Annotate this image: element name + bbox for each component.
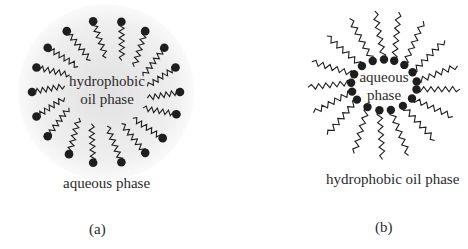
hydrophilic-head [117, 17, 126, 26]
hydrophobic-tail [374, 11, 386, 59]
hydrophobic-tail [107, 126, 122, 162]
hydrophilic-head [62, 27, 71, 36]
hydrophobic-tail [32, 84, 65, 94]
hydrophilic-head [160, 44, 169, 53]
normal-micelle-drawing [0, 0, 234, 249]
hydrophobic-tail [327, 36, 362, 66]
hydrophobic-tail [89, 124, 96, 163]
hydrophilic-head [43, 44, 52, 53]
surfactant-molecule [62, 27, 90, 61]
hydrophobic-tail [417, 87, 460, 93]
hydrophilic-head [176, 88, 185, 97]
hydrophobic-tail [390, 110, 409, 156]
surfactant-molecule [390, 12, 401, 65]
hydrophilic-head [390, 57, 398, 65]
surfactant-molecule [89, 124, 98, 167]
surfactant-molecule [387, 106, 409, 156]
hydrophilic-head [43, 132, 52, 141]
hydrophobic-tail [417, 66, 458, 83]
hydrophilic-head [141, 149, 150, 158]
hydrophobic-tail [350, 19, 374, 61]
hydrophilic-head [375, 106, 383, 114]
surfactant-molecule [412, 85, 460, 93]
reverse-micelle-drawing [234, 0, 468, 249]
caption-b: (b) [375, 220, 393, 235]
hydrophilic-head [158, 134, 167, 143]
hydrophobic-tail [37, 98, 65, 117]
hydrophilic-head [32, 63, 41, 72]
outer-label-b: hydrophobic oil phase [326, 172, 459, 187]
surfactant-molecule [65, 118, 81, 159]
hydrophobic-tail [133, 31, 146, 67]
hydrophobic-tail [413, 40, 445, 72]
hydrophilic-head [387, 106, 395, 114]
hydrophilic-head [89, 17, 98, 26]
hydrophilic-head [369, 57, 377, 65]
hydrophilic-head [32, 112, 41, 121]
hydrophobic-tail [119, 22, 125, 61]
hydrophobic-tail [308, 81, 351, 90]
surfactant-molecule [28, 84, 65, 96]
surfactant-molecule [89, 17, 107, 58]
hydrophobic-tail [353, 107, 368, 153]
hydrophobic-tail [403, 106, 435, 141]
hydrophobic-tail [327, 100, 357, 135]
core-label-b-line2: phase [352, 86, 416, 104]
hydrophobic-tail [404, 21, 424, 65]
surfactant-molecule [375, 106, 384, 159]
surfactant-molecule [32, 98, 64, 121]
hydrophobic-tail [147, 90, 180, 100]
surfactant-molecule [374, 11, 388, 64]
hydrophobic-tail [392, 12, 401, 61]
hydrophilic-head [172, 110, 181, 119]
panel-a-normal-micelle: hydrophobic oil phase aqueous phase (a) [0, 0, 234, 249]
surfactant-molecule [117, 17, 126, 60]
core-label-b-line1: aqueous [352, 68, 416, 86]
hydrophobic-tail [133, 118, 163, 138]
hydrophilic-head [171, 63, 180, 72]
hydrophobic-tail [377, 110, 385, 159]
hydrophobic-tail [68, 118, 80, 154]
hydrophilic-head [28, 88, 37, 97]
surfactant-molecule [122, 124, 150, 158]
surfactant-molecule [412, 66, 457, 86]
surfactant-molecule [43, 44, 78, 68]
hydrophobic-tail [92, 21, 107, 58]
hydrophilic-head [117, 158, 126, 167]
hydrophobic-tail [412, 99, 453, 118]
hydrophobic-tail [122, 124, 146, 153]
hydrophilic-head [363, 103, 371, 111]
surfactant-molecule [314, 87, 357, 112]
caption-a: (a) [89, 222, 106, 237]
hydrophobic-tail [314, 91, 353, 113]
surfactant-molecule [400, 21, 424, 69]
hydrophobic-tail [312, 60, 354, 74]
hydrophilic-head [141, 27, 150, 36]
surfactant-molecule [43, 108, 69, 141]
core-label-a-line2: oil phase [62, 90, 152, 108]
panel-b-reverse-micelle: aqueous phase hydrophobic oil phase (b) [234, 0, 468, 249]
hydrophilic-head [380, 55, 388, 63]
core-label-a: hydrophobic oil phase [62, 72, 152, 108]
surfactant-molecule [107, 126, 125, 167]
hydrophobic-tail [67, 31, 91, 60]
surfactant-molecule [350, 19, 377, 66]
outer-label-a: aqueous phase [63, 176, 150, 191]
surfactant-molecule [147, 88, 184, 100]
surfactant-molecule [133, 27, 150, 67]
hydrophilic-head [89, 158, 98, 167]
hydrophobic-tail [48, 108, 69, 136]
hydrophobic-tail [48, 48, 78, 68]
surfactant-molecule [308, 79, 355, 90]
hydrophilic-head [65, 150, 74, 159]
core-label-a-line1: hydrophobic [62, 72, 152, 90]
core-label-b: aqueous phase [352, 68, 416, 104]
surfactant-molecule [147, 63, 179, 86]
surfactant-molecule [353, 103, 372, 154]
